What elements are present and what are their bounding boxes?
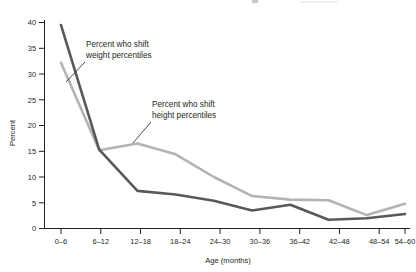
- chart-container: 40 35 30 25 20 15 10 5 0 Percent 0: [0, 0, 416, 272]
- x-tick-label-1: 6–12: [93, 237, 109, 246]
- x-tick-label-5: 30–36: [250, 237, 271, 246]
- y-tick-label-25: 25: [28, 96, 36, 105]
- x-tick-label-2: 12–18: [130, 237, 151, 246]
- height-annotation-line1: Percent who shift: [152, 100, 216, 109]
- y-tick-label-20: 20: [28, 121, 36, 130]
- y-tick-label-10: 10: [28, 173, 36, 182]
- y-tick-label-40: 40: [28, 18, 36, 27]
- chart-background: [0, 0, 416, 272]
- x-tick-label-9: 54–60: [395, 237, 416, 246]
- y-tick-label-35: 35: [28, 44, 36, 53]
- height-annotation-line2: height percentiles: [152, 111, 216, 120]
- y-tick-label-15: 15: [28, 147, 36, 156]
- weight-annotation-line1: Percent who shift: [86, 40, 150, 49]
- x-tick-label-3: 18–24: [170, 237, 191, 246]
- x-tick-label-4: 24–30: [210, 237, 231, 246]
- y-axis-title: Percent: [8, 119, 17, 146]
- x-tick-label-6: 36–42: [289, 237, 310, 246]
- x-tick-label-7: 42–48: [329, 237, 350, 246]
- line-chart: 40 35 30 25 20 15 10 5 0 Percent 0: [0, 0, 416, 272]
- y-tick-label-5: 5: [32, 199, 36, 208]
- y-tick-label-0: 0: [32, 224, 36, 233]
- x-tick-label-0: 0–6: [55, 237, 67, 246]
- x-tick-label-8: 48–54: [369, 237, 390, 246]
- weight-annotation-line2: weight percentiles: [85, 51, 152, 60]
- x-axis-title: Age (months): [205, 256, 251, 265]
- y-tick-label-30: 30: [28, 70, 36, 79]
